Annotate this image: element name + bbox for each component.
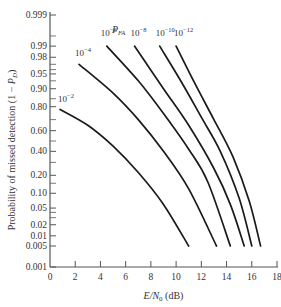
curves <box>60 46 261 246</box>
x-tick-label: 8 <box>149 272 154 282</box>
y-axis-label: Probability of missed detection (1 − PD) <box>6 70 19 231</box>
x-tick-label: 18 <box>272 272 281 282</box>
curve-label: 10−12 <box>174 26 193 38</box>
x-tick-label: 4 <box>98 272 103 282</box>
curve-label: 10−6 <box>101 26 118 38</box>
y-tick-label: 0.99 <box>30 41 47 51</box>
chart: 0.9990.990.980.950.900.800.600.400.200.1… <box>0 0 281 307</box>
y-tick-label: 0.98 <box>30 52 47 62</box>
y-tick-label: 0.01 <box>30 231 47 241</box>
y-tick-label: 0.999 <box>26 10 48 20</box>
curve-label: 10−4 <box>75 46 92 58</box>
x-axis-label: E/N0 (dB) <box>143 290 184 303</box>
chart-svg: 0.9990.990.980.950.900.800.600.400.200.1… <box>0 0 281 307</box>
y-tick-label: 0.05 <box>30 203 47 213</box>
y-tick-label: 0.40 <box>30 146 47 156</box>
y-tick-label: 0.95 <box>30 69 47 79</box>
y-tick-label: 0.90 <box>30 84 47 94</box>
x-tick-label: 10 <box>171 272 181 282</box>
curve-pfa-10-10 <box>160 46 252 246</box>
y-tick-label: 0.10 <box>30 188 47 198</box>
x-tick-label: 12 <box>197 272 207 282</box>
x-tick-label: 2 <box>73 272 78 282</box>
curve-label: 10−8 <box>130 26 146 38</box>
x-tick-label: 14 <box>222 272 232 282</box>
curve-pfa-10-2 <box>60 110 189 247</box>
curve-label: 10−2 <box>58 92 74 104</box>
curve-label: 10−10 <box>156 26 175 38</box>
y-tick-label: 0.02 <box>30 220 47 230</box>
y-tick-label: 0.001 <box>26 262 48 272</box>
y-tick-label: 0.005 <box>26 241 48 251</box>
x-tick-label: 0 <box>48 272 53 282</box>
y-tick-label: 0.80 <box>30 102 47 112</box>
x-tick-label: 6 <box>123 272 128 282</box>
x-tick-label: 16 <box>247 272 257 282</box>
y-tick-label: 0.60 <box>30 126 47 136</box>
y-tick-label: 0.20 <box>30 170 47 180</box>
curve-pfa-10-6 <box>107 46 231 246</box>
